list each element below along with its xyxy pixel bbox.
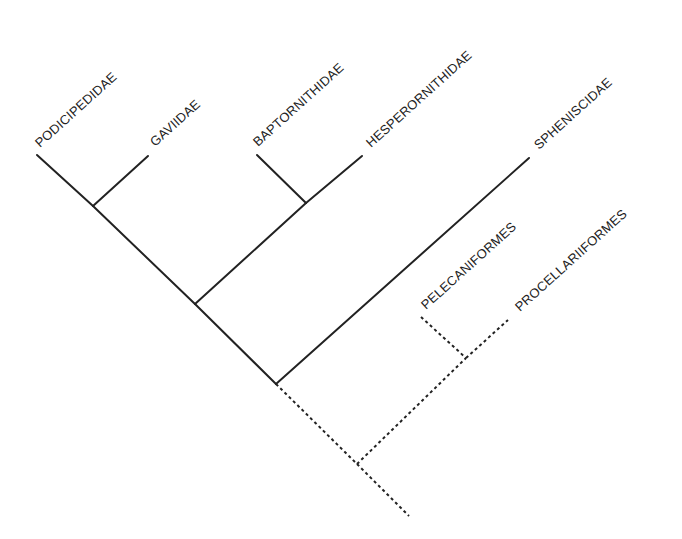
dotted-branches [276, 317, 508, 516]
branch-pelecaniformes [421, 317, 466, 358]
trunk-dotted-root [357, 464, 409, 516]
trunk-segment-1 [93, 206, 195, 304]
label-hesperornithidae: HESPERORNITHIDAE [363, 47, 475, 150]
branch-spheniscidae [276, 158, 529, 384]
branch-podicipedidae [37, 155, 93, 206]
label-spheniscidae: SPHENISCIDAE [531, 75, 615, 153]
label-procellariiformes: PROCELLARIIFORMES [512, 206, 630, 314]
branch-gaviidae [93, 156, 148, 206]
label-baptornithidae: BAPTORNITHIDAE [250, 60, 347, 149]
label-gaviidae: GAVIIDAE [147, 96, 203, 149]
label-pelecaniformes: PELECANIFORMES [418, 219, 519, 312]
trunk-dotted-1 [276, 384, 357, 464]
branch-baptornithidae [257, 155, 306, 203]
branch-hesperornithiformes-stem [195, 203, 306, 304]
label-podicipedidae: PODICIPEDIDAE [32, 69, 120, 150]
trunk-segment-2 [195, 304, 276, 384]
branch-pelecaniformes-procellariiformes-stem [357, 358, 466, 464]
branch-hesperornithidae [306, 156, 362, 203]
branch-procellariiformes [466, 320, 508, 358]
cladogram: PODICIPEDIDAE GAVIIDAE BAPTORNITHIDAE HE… [0, 0, 682, 539]
